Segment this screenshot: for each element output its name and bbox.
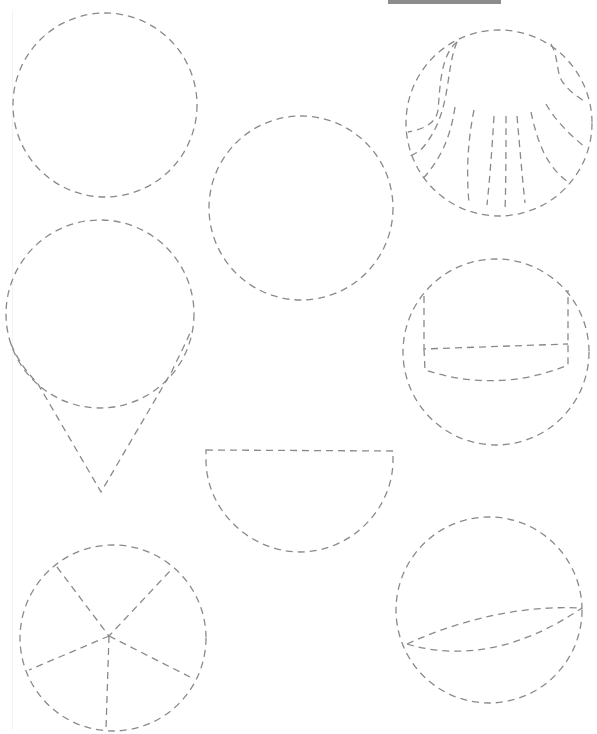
shell-circle-line-6	[517, 116, 525, 203]
shell-circle-line-1	[410, 42, 457, 156]
sphere-circle-line-0	[407, 608, 582, 644]
sphere-circle-outline	[396, 517, 582, 703]
plain-circle-center-outline	[209, 116, 393, 300]
half-circle	[206, 450, 393, 552]
shell-circle-line-7	[531, 112, 568, 182]
pie-circle-line-1	[29, 636, 109, 670]
shell-circle-line-9	[551, 44, 585, 102]
shell-circle	[406, 30, 592, 216]
shell-circle-line-3	[468, 110, 474, 203]
plain-circle-center	[209, 116, 393, 300]
pie-circle-line-2	[109, 636, 190, 677]
plain-circle-top-left	[13, 13, 197, 197]
shell-circle-line-5	[505, 116, 506, 212]
shell-circle-outline	[406, 30, 592, 216]
sphere-circle	[396, 517, 582, 703]
pie-circle-line-3	[106, 636, 109, 729]
bucket-circle-outline	[403, 259, 589, 445]
worksheet-canvas	[0, 0, 597, 734]
plain-circle-top-left-outline	[13, 13, 197, 197]
ice-cream-scoop-line-0	[11, 333, 190, 492]
half-circle-line-0	[206, 450, 393, 552]
bucket-circle-line-0	[424, 296, 568, 349]
shell-circle-line-8	[546, 104, 585, 147]
pie-circle-line-0	[57, 567, 170, 636]
sphere-circle-line-1	[407, 608, 582, 651]
shell-circle-line-0	[408, 42, 457, 132]
shell-circle-line-4	[487, 116, 494, 205]
ice-cream-scoop	[6, 220, 194, 492]
bucket-circle-line-1	[424, 290, 568, 381]
bucket-circle	[403, 259, 589, 445]
pie-circle	[20, 545, 206, 731]
